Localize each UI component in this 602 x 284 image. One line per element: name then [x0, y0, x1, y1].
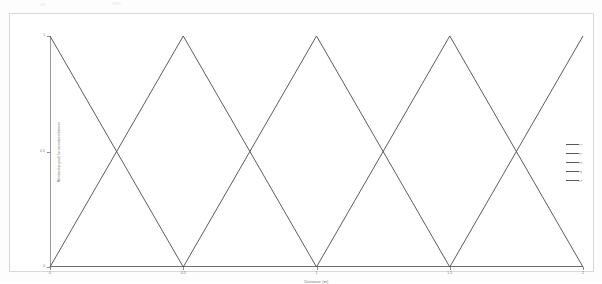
figure-frame: 0 0.5 1 0 0.5 1 1.5 2 Distance (m) Membe…	[9, 13, 594, 272]
x-tick-mark-1	[183, 267, 184, 270]
membership-function-curves	[50, 36, 583, 267]
legend-line-swatch	[566, 180, 579, 181]
plot-area: 0 0.5 1 0 0.5 1 1.5 2 Distance (m) Membe…	[50, 36, 583, 267]
legend-line-swatch	[566, 162, 579, 163]
x-tick-label-4: 2	[582, 272, 584, 276]
legend-item-label: 5	[580, 180, 584, 182]
legend-line-swatch	[566, 171, 579, 172]
x-tick-label-0: 0	[49, 272, 51, 276]
legend-line-swatch	[566, 144, 579, 145]
legend-line-swatch	[566, 153, 579, 154]
series-line-4	[317, 36, 584, 267]
legend-item-label: 3	[580, 162, 584, 164]
x-tick-label-2: 1	[316, 272, 318, 276]
y-tick-label-0: 0	[43, 265, 45, 269]
y-tick-mark-2	[47, 36, 50, 37]
legend-item-label: 4	[580, 171, 584, 173]
y-tick-label-2: 1	[43, 34, 45, 38]
legend-item-label: 1	[580, 144, 584, 146]
x-tick-mark-0	[50, 267, 51, 270]
legend: 1 2 3 4 5	[566, 140, 602, 186]
x-axis-title: Distance (m)	[305, 280, 329, 284]
series-line-3	[183, 36, 450, 267]
x-tick-label-3: 1.5	[447, 272, 452, 276]
y-tick-mark-1	[47, 152, 50, 153]
series-line-2	[50, 36, 317, 267]
legend-item[interactable]: 4	[566, 167, 602, 176]
scan-artifact	[40, 3, 46, 6]
legend-item[interactable]: 2	[566, 149, 602, 158]
scan-artifact	[112, 2, 121, 5]
legend-item[interactable]: 3	[566, 158, 602, 167]
x-tick-mark-2	[317, 267, 318, 270]
legend-item[interactable]: 1	[566, 140, 602, 149]
series-group	[50, 36, 583, 267]
legend-item-label: 2	[580, 153, 584, 155]
y-tick-label-1: 0.5	[40, 150, 45, 154]
legend-item[interactable]: 5	[566, 176, 602, 185]
x-tick-label-1: 0.5	[181, 272, 186, 276]
x-tick-mark-4	[583, 267, 584, 270]
y-axis-title: Membership grade for normalized distance	[57, 117, 61, 187]
x-tick-mark-3	[450, 267, 451, 270]
